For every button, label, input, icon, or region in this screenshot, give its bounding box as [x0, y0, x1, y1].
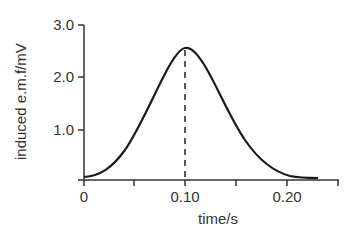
- x-tick-0: 0: [59, 188, 109, 205]
- y-tick-2: 2.0: [34, 68, 74, 85]
- y-tick-3: 3.0: [34, 16, 74, 33]
- emf-curve: [84, 48, 318, 178]
- emf-chart: induced e.m.f/mV 3.0 2.0 1.0 0 0.10 0.20…: [0, 0, 356, 247]
- x-tick-010: 0.10: [160, 188, 210, 205]
- y-tick-1: 1.0: [34, 121, 74, 138]
- x-axis-label: time/s: [198, 210, 238, 227]
- y-axis-label: induced e.m.f/mV: [12, 43, 29, 160]
- x-tick-020: 0.20: [262, 188, 312, 205]
